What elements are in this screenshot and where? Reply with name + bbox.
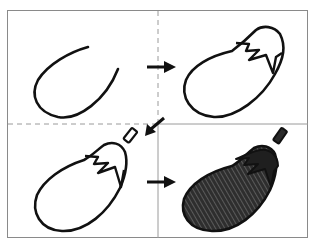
- tutorial-illustration: [0, 0, 315, 247]
- panel-1-body-curve: [35, 47, 118, 117]
- panel-4-eggplant-colored: [183, 128, 287, 231]
- arrow-right-2-icon: [147, 176, 176, 188]
- arrow-right-1-icon: [147, 61, 176, 73]
- stem: [123, 128, 137, 143]
- body-curve-stroke: [35, 47, 118, 117]
- arrow-down-left-icon: [145, 118, 164, 136]
- panel-3-eggplant-with-stem: [35, 128, 137, 231]
- stem-colored: [273, 128, 287, 144]
- panel-2-eggplant-outline: [184, 27, 283, 117]
